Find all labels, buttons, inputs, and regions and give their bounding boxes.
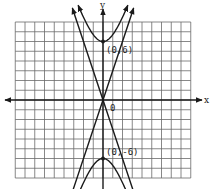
x-axis-label: x bbox=[204, 95, 209, 105]
upper-vertex-label: (0,6) bbox=[106, 45, 133, 55]
origin-label: 0 bbox=[110, 103, 115, 113]
vertex-point bbox=[101, 40, 105, 44]
hyperbola-plot: y x 0 (0,6) (0,-6) bbox=[0, 0, 211, 189]
lower-vertex-label: (0,-6) bbox=[106, 147, 139, 157]
vertex-point bbox=[101, 157, 105, 161]
y-axis-label: y bbox=[99, 0, 106, 10]
